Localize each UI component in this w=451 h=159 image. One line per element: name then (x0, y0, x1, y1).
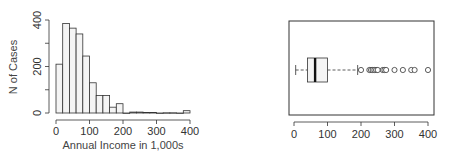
histogram-panel: 0200400 0100200300400 Annual Income in 1… (7, 11, 199, 151)
x-tick-label: 300 (147, 125, 165, 137)
histogram-bar (157, 113, 164, 114)
histogram-x-axis-label: Annual Income in 1,000s (62, 139, 184, 151)
histogram-bar (76, 34, 83, 113)
boxplot-body (296, 58, 358, 82)
y-tick-label: 400 (31, 11, 43, 29)
figure: 0200400 0100200300400 Annual Income in 1… (0, 0, 451, 159)
x-tick-label: 100 (80, 125, 98, 137)
y-tick-label: 0 (31, 110, 43, 116)
x-tick-label: 400 (181, 125, 199, 137)
x-tick-label: 200 (114, 125, 132, 137)
histogram-bar (123, 113, 130, 114)
histogram-bar (69, 28, 76, 113)
outlier-point (358, 67, 363, 72)
y-tick-label: 200 (31, 57, 43, 75)
histogram-bar (177, 113, 184, 114)
x-tick-label: 300 (385, 128, 403, 140)
histogram-bar (116, 104, 123, 113)
outlier-point (375, 67, 380, 72)
x-tick-label: 0 (53, 125, 59, 137)
x-tick-label: 400 (419, 128, 437, 140)
histogram-bar (96, 96, 103, 113)
outlier-point (400, 67, 405, 72)
histogram-bar (110, 107, 117, 113)
outlier-point (412, 67, 417, 72)
outlier-point (392, 67, 397, 72)
x-tick-label: 100 (318, 128, 336, 140)
histogram-y-axis: 0200400 (31, 11, 49, 116)
histogram-bar (63, 23, 70, 113)
histogram-bar (170, 113, 177, 114)
boxplot-x-axis: 0100200300400 (291, 122, 437, 140)
histogram-x-axis: 0100200300400 (53, 120, 199, 137)
histogram-bar (90, 83, 97, 113)
histogram-bar (103, 96, 110, 113)
x-tick-label: 0 (291, 128, 297, 140)
histogram-y-axis-label: N of Cases (7, 39, 19, 94)
histogram-bar (150, 113, 157, 114)
x-tick-label: 200 (352, 128, 370, 140)
histogram-bar (83, 56, 90, 113)
histogram-bar (130, 112, 137, 113)
outlier-point (384, 67, 389, 72)
boxplot-panel: 0100200300400 (289, 21, 437, 140)
histogram-bar (136, 112, 143, 113)
histogram-bars (56, 23, 190, 113)
histogram-bar (163, 113, 170, 114)
histogram-bar (183, 111, 190, 113)
boxplot-outliers (358, 67, 430, 72)
histogram-bar (143, 113, 150, 114)
histogram-bar (56, 64, 63, 113)
outlier-point (425, 67, 430, 72)
